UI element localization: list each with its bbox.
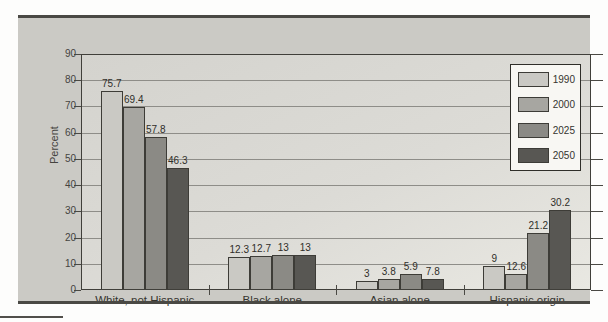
y-tick <box>591 211 603 212</box>
y-tick <box>591 238 603 239</box>
bar-1990 <box>228 257 250 289</box>
legend-item: 1990 <box>518 72 576 87</box>
bar-1990 <box>356 281 378 289</box>
bar-2000 <box>505 274 527 289</box>
bar-value-label: 46.3 <box>158 155 198 166</box>
legend-item: 2000 <box>518 97 576 112</box>
cropped-page-rule <box>0 316 63 318</box>
category-label: Hispanic origin <box>457 294 597 306</box>
bar-value-label: 30.2 <box>540 197 580 208</box>
legend-item: 2050 <box>518 148 576 163</box>
y-tick <box>591 159 603 160</box>
y-tick <box>591 185 603 186</box>
bar-2050 <box>422 279 444 289</box>
bar-1990 <box>101 91 123 290</box>
bar-value-label: 75.7 <box>92 78 132 89</box>
y-tick-label: 50 <box>44 153 76 165</box>
bar-value-label: 69.4 <box>114 94 154 105</box>
category-label: Asian alone <box>330 294 470 306</box>
bottom-rule <box>18 301 590 304</box>
y-tick <box>591 133 603 134</box>
bar-value-label: 7.8 <box>413 266 453 277</box>
y-tick-label: 40 <box>44 179 76 191</box>
bar-value-label: 57.8 <box>136 124 176 135</box>
legend-label: 2025 <box>549 125 576 136</box>
bar-2000 <box>250 256 272 289</box>
bar-2050 <box>167 168 189 289</box>
legend-swatch-2025 <box>518 123 549 138</box>
bar-value-label: 13 <box>285 242 325 253</box>
y-tick-label: 60 <box>44 127 76 139</box>
bar-2050 <box>294 255 316 289</box>
y-tick-label: 20 <box>44 232 76 244</box>
legend-label: 1990 <box>549 74 576 85</box>
bar-2025 <box>272 255 294 289</box>
legend-item: 2025 <box>518 123 576 138</box>
legend-swatch-2000 <box>518 97 549 112</box>
category-label: Black alone <box>202 294 342 306</box>
bar-2000 <box>378 279 400 289</box>
y-tick-label: 0 <box>44 284 76 296</box>
y-tick <box>591 264 603 265</box>
y-tick-label: 80 <box>44 74 76 86</box>
y-tick <box>591 54 603 55</box>
bar-2025 <box>527 233 549 289</box>
chart-panel: Percent 75.769.457.846.312.312.7131333.8… <box>18 18 590 301</box>
legend-label: 2050 <box>549 150 576 161</box>
y-tick-label: 70 <box>44 100 76 112</box>
y-tick <box>591 290 603 291</box>
category-label: White, not Hispanic <box>75 294 215 306</box>
legend-swatch-1990 <box>518 72 549 87</box>
legend-swatch-2050 <box>518 148 549 163</box>
y-tick-label: 10 <box>44 258 76 270</box>
legend: 1990200020252050 <box>510 64 581 171</box>
y-tick-label: 90 <box>44 48 76 60</box>
y-tick <box>591 80 603 81</box>
bar-2050 <box>549 210 571 289</box>
y-tick <box>591 106 603 107</box>
y-tick-label: 30 <box>44 205 76 217</box>
legend-label: 2000 <box>549 99 576 110</box>
figure: Percent 75.769.457.846.312.312.7131333.8… <box>0 0 608 322</box>
